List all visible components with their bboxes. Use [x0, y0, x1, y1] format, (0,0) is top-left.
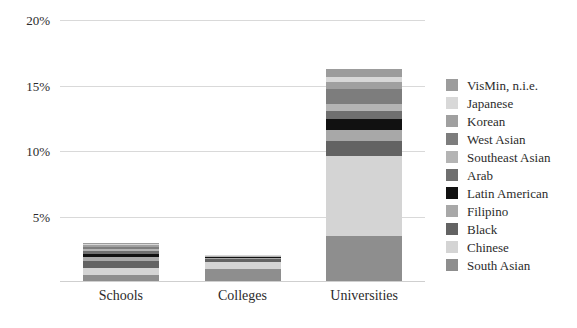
- x-axis-tick-label: Universities: [303, 288, 425, 304]
- bar-segment: [326, 119, 402, 130]
- legend-item[interactable]: Southeast Asian: [446, 148, 572, 166]
- legend-item[interactable]: Korean: [446, 112, 572, 130]
- bar-segment: [326, 236, 402, 281]
- legend-item[interactable]: West Asian: [446, 130, 572, 148]
- plot-area: [60, 20, 425, 282]
- legend-item-label: Black: [467, 222, 497, 237]
- legend-item-label: Chinese: [467, 240, 509, 255]
- legend-swatch-icon: [446, 187, 458, 199]
- bar-segment: [326, 89, 402, 103]
- legend-item-label: Arab: [467, 168, 493, 183]
- x-axis-tick-label: Schools: [60, 288, 182, 304]
- legend-item-label: Southeast Asian: [467, 150, 550, 165]
- bar-segment: [326, 82, 402, 89]
- stacked-bar-chart: 5%10%15%20% SchoolsCollegesUniversities …: [0, 0, 577, 328]
- legend-swatch-icon: [446, 241, 458, 253]
- legend-swatch-icon: [446, 97, 458, 109]
- legend-swatch-icon: [446, 115, 458, 127]
- legend-item[interactable]: Filipino: [446, 202, 572, 220]
- x-axis-baseline: [60, 281, 425, 282]
- legend-item-label: Japanese: [467, 96, 513, 111]
- legend-item-label: Korean: [467, 114, 505, 129]
- y-axis-tick-label: 10%: [26, 145, 50, 158]
- legend-swatch-icon: [446, 79, 458, 91]
- bar-stack: [83, 243, 159, 281]
- legend-swatch-icon: [446, 259, 458, 271]
- bar-segment: [83, 268, 159, 275]
- bar-stack: [326, 69, 402, 281]
- legend-item-label: South Asian: [467, 258, 530, 273]
- y-axis-tick-label: 5%: [33, 210, 50, 223]
- bar-segment: [326, 130, 402, 141]
- bar-stack: [205, 255, 281, 281]
- bar-segment: [326, 111, 402, 119]
- legend-item[interactable]: South Asian: [446, 256, 572, 274]
- gridline: [60, 20, 425, 21]
- legend-item-label: Latin American: [467, 186, 548, 201]
- legend-item[interactable]: VisMin, n.i.e.: [446, 76, 572, 94]
- legend: VisMin, n.i.e.JapaneseKoreanWest AsianSo…: [446, 76, 572, 274]
- legend-item[interactable]: Arab: [446, 166, 572, 184]
- legend-item[interactable]: Black: [446, 220, 572, 238]
- bar-segment: [83, 275, 159, 281]
- legend-item-label: West Asian: [467, 132, 526, 147]
- bar-segment: [326, 69, 402, 78]
- legend-swatch-icon: [446, 169, 458, 181]
- bar-segment: [326, 104, 402, 111]
- legend-item[interactable]: Latin American: [446, 184, 572, 202]
- legend-swatch-icon: [446, 151, 458, 163]
- legend-swatch-icon: [446, 133, 458, 145]
- legend-item[interactable]: Japanese: [446, 94, 572, 112]
- legend-item-label: VisMin, n.i.e.: [467, 78, 538, 93]
- y-axis-tick-label: 15%: [26, 79, 50, 92]
- y-axis-tick-label: 20%: [26, 14, 50, 27]
- legend-item-label: Filipino: [467, 204, 508, 219]
- legend-swatch-icon: [446, 205, 458, 217]
- legend-swatch-icon: [446, 223, 458, 235]
- x-axis-tick-label: Colleges: [182, 288, 304, 304]
- legend-item[interactable]: Chinese: [446, 238, 572, 256]
- bar-segment: [326, 141, 402, 156]
- bar-segment: [205, 269, 281, 281]
- bar-segment: [326, 156, 402, 236]
